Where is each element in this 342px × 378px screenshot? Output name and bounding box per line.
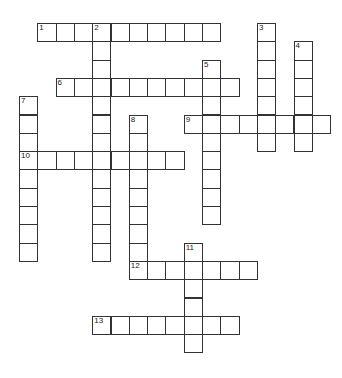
crossword-cell[interactable] bbox=[92, 224, 111, 243]
crossword-cell[interactable] bbox=[129, 316, 148, 335]
crossword-cell[interactable] bbox=[92, 96, 111, 115]
crossword-cell[interactable] bbox=[92, 78, 111, 97]
crossword-cell[interactable] bbox=[202, 115, 221, 134]
crossword-cell[interactable]: 7 bbox=[19, 96, 38, 115]
crossword-cell[interactable] bbox=[147, 23, 166, 42]
crossword-cell[interactable] bbox=[239, 115, 258, 134]
crossword-cell[interactable]: 1 bbox=[37, 23, 56, 42]
crossword-cell[interactable] bbox=[56, 23, 75, 42]
crossword-cell[interactable] bbox=[184, 261, 203, 280]
crossword-cell[interactable] bbox=[92, 133, 111, 152]
crossword-cell[interactable] bbox=[92, 188, 111, 207]
crossword-cell[interactable] bbox=[92, 60, 111, 79]
crossword-cell[interactable] bbox=[92, 41, 111, 60]
crossword-cell[interactable] bbox=[129, 169, 148, 188]
clue-number: 6 bbox=[58, 78, 62, 87]
crossword-cell[interactable] bbox=[19, 188, 38, 207]
crossword-cell[interactable] bbox=[257, 133, 276, 152]
crossword-cell[interactable] bbox=[147, 261, 166, 280]
crossword-cell[interactable] bbox=[202, 78, 221, 97]
crossword-cell[interactable] bbox=[220, 316, 239, 335]
crossword-cell[interactable] bbox=[202, 261, 221, 280]
crossword-cell[interactable] bbox=[220, 261, 239, 280]
crossword-cell[interactable] bbox=[92, 206, 111, 225]
crossword-cell[interactable]: 12 bbox=[129, 261, 148, 280]
crossword-cell[interactable] bbox=[165, 261, 184, 280]
crossword-cell[interactable] bbox=[257, 115, 276, 134]
crossword-cell[interactable] bbox=[294, 96, 313, 115]
crossword-cell[interactable]: 6 bbox=[56, 78, 75, 97]
crossword-cell[interactable] bbox=[129, 206, 148, 225]
crossword-cell[interactable] bbox=[19, 133, 38, 152]
crossword-cell[interactable] bbox=[202, 188, 221, 207]
crossword-cell[interactable] bbox=[257, 60, 276, 79]
crossword-cell[interactable] bbox=[202, 96, 221, 115]
crossword-cell[interactable] bbox=[92, 169, 111, 188]
crossword-cell[interactable] bbox=[257, 96, 276, 115]
crossword-cell[interactable] bbox=[165, 151, 184, 170]
crossword-cell[interactable] bbox=[184, 334, 203, 353]
crossword-cell[interactable] bbox=[165, 316, 184, 335]
crossword-cell[interactable] bbox=[202, 206, 221, 225]
crossword-cell[interactable]: 10 bbox=[19, 151, 38, 170]
crossword-cell[interactable] bbox=[294, 133, 313, 152]
crossword-cell[interactable] bbox=[111, 23, 130, 42]
crossword-cell[interactable] bbox=[56, 151, 75, 170]
crossword-cell[interactable] bbox=[239, 261, 258, 280]
crossword-cell[interactable] bbox=[37, 151, 56, 170]
crossword-cell[interactable] bbox=[111, 78, 130, 97]
crossword-cell[interactable] bbox=[220, 78, 239, 97]
crossword-cell[interactable] bbox=[184, 298, 203, 317]
crossword-cell[interactable] bbox=[129, 243, 148, 262]
crossword-cell[interactable] bbox=[184, 78, 203, 97]
crossword-cell[interactable] bbox=[294, 78, 313, 97]
crossword-cell[interactable]: 11 bbox=[184, 243, 203, 262]
crossword-cell[interactable] bbox=[165, 23, 184, 42]
crossword-cell[interactable] bbox=[74, 151, 93, 170]
crossword-cell[interactable] bbox=[184, 316, 203, 335]
crossword-cell[interactable] bbox=[19, 169, 38, 188]
crossword-cell[interactable] bbox=[294, 115, 313, 134]
crossword-cell[interactable] bbox=[129, 224, 148, 243]
crossword-cell[interactable] bbox=[129, 78, 148, 97]
crossword-cell[interactable] bbox=[220, 115, 239, 134]
crossword-cell[interactable] bbox=[147, 78, 166, 97]
crossword-cell[interactable]: 5 bbox=[202, 60, 221, 79]
crossword-cell[interactable] bbox=[92, 115, 111, 134]
crossword-cell[interactable] bbox=[19, 243, 38, 262]
crossword-cell[interactable] bbox=[92, 243, 111, 262]
crossword-cell[interactable] bbox=[202, 169, 221, 188]
crossword-cell[interactable] bbox=[275, 115, 294, 134]
crossword-cell[interactable]: 2 bbox=[92, 23, 111, 42]
crossword-cell[interactable] bbox=[202, 133, 221, 152]
crossword-cell[interactable]: 3 bbox=[257, 23, 276, 42]
crossword-cell[interactable] bbox=[202, 316, 221, 335]
crossword-cell[interactable] bbox=[257, 41, 276, 60]
crossword-cell[interactable] bbox=[129, 151, 148, 170]
crossword-cell[interactable]: 13 bbox=[92, 316, 111, 335]
crossword-cell[interactable]: 4 bbox=[294, 41, 313, 60]
crossword-cell[interactable] bbox=[129, 188, 148, 207]
crossword-cell[interactable] bbox=[19, 224, 38, 243]
crossword-cell[interactable] bbox=[129, 133, 148, 152]
crossword-cell[interactable]: 8 bbox=[129, 115, 148, 134]
crossword-cell[interactable] bbox=[19, 206, 38, 225]
crossword-cell[interactable] bbox=[184, 23, 203, 42]
crossword-cell[interactable] bbox=[74, 23, 93, 42]
crossword-cell[interactable] bbox=[147, 151, 166, 170]
crossword-cell[interactable]: 9 bbox=[184, 115, 203, 134]
crossword-cell[interactable] bbox=[294, 60, 313, 79]
crossword-cell[interactable] bbox=[74, 78, 93, 97]
crossword-cell[interactable] bbox=[184, 279, 203, 298]
crossword-cell[interactable] bbox=[111, 151, 130, 170]
crossword-cell[interactable] bbox=[111, 316, 130, 335]
crossword-cell[interactable] bbox=[202, 23, 221, 42]
crossword-cell[interactable] bbox=[129, 23, 148, 42]
crossword-cell[interactable] bbox=[257, 78, 276, 97]
crossword-cell[interactable] bbox=[19, 115, 38, 134]
crossword-cell[interactable] bbox=[165, 78, 184, 97]
crossword-cell[interactable] bbox=[147, 316, 166, 335]
crossword-cell[interactable] bbox=[312, 115, 331, 134]
crossword-cell[interactable] bbox=[202, 151, 221, 170]
crossword-cell[interactable] bbox=[92, 151, 111, 170]
